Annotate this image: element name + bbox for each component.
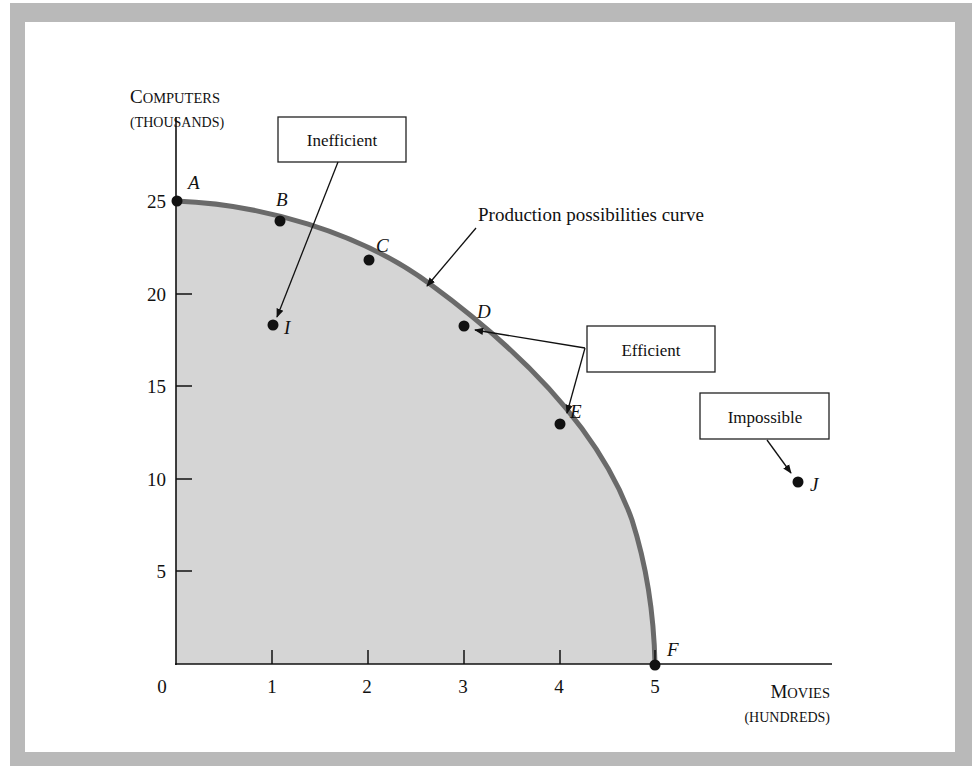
y-tick-label: 25 <box>147 191 166 212</box>
point-e-marker <box>555 419 566 430</box>
y-tick-label: 5 <box>157 561 167 582</box>
point-e-label: E <box>569 401 582 422</box>
point-c-marker <box>364 255 375 266</box>
point-i-marker <box>268 320 279 331</box>
point-f-label: F <box>666 639 679 660</box>
ppc-chart: 5 10 15 20 25 0 1 2 3 4 5 COMPUTERS (THO… <box>0 0 974 766</box>
x-axis-title: MOVIES <box>770 681 830 702</box>
point-j-label: J <box>810 474 820 495</box>
inefficient-label: Inefficient <box>307 131 378 150</box>
x-tick-label: 5 <box>650 676 660 697</box>
point-f-marker <box>650 660 661 671</box>
y-tick-label: 20 <box>147 284 166 305</box>
x-tick-label: 3 <box>458 676 468 697</box>
x-tick-label: 1 <box>267 676 277 697</box>
x-axis-subtitle: (HUNDREDS) <box>744 710 830 726</box>
point-d-marker <box>459 321 470 332</box>
curve-label-arrow <box>427 228 476 286</box>
origin-label: 0 <box>157 676 167 697</box>
point-b-label: B <box>276 189 288 210</box>
curve-label: Production possibilities curve <box>478 204 704 225</box>
y-tick-label: 15 <box>147 376 166 397</box>
x-tick-label: 4 <box>554 676 564 697</box>
y-tick-label: 10 <box>147 469 166 490</box>
point-b-marker <box>275 216 286 227</box>
y-axis-subtitle: (THOUSANDS) <box>130 115 224 131</box>
point-d-label: D <box>476 301 491 322</box>
point-c-label: C <box>376 235 389 256</box>
point-j-marker <box>793 477 804 488</box>
impossible-arrow <box>767 440 791 473</box>
point-a-marker <box>172 196 183 207</box>
y-axis-title: COMPUTERS <box>130 86 220 107</box>
x-tick-label: 2 <box>362 676 372 697</box>
point-a-label: A <box>186 172 200 193</box>
impossible-label: Impossible <box>728 408 803 427</box>
efficient-label: Efficient <box>621 341 680 360</box>
